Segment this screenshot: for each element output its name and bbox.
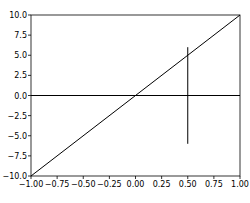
y-tick-label: 2.5 [14,71,27,80]
y-tick-label: −2.5 [8,112,27,121]
y-tick-label: −10.0 [2,172,27,181]
x-tick-label: 0.50 [179,180,197,189]
y-tick-label: 5.0 [14,51,27,60]
y-tick-label: −7.5 [8,152,27,161]
x-axis-ticks: −1.00−0.75−0.50−0.250.000.250.500.751.00 [19,176,249,189]
x-tick-label: −0.50 [71,180,96,189]
y-axis-ticks: 10.07.55.02.50.0−2.5−5.0−7.5−10.0 [2,11,31,181]
y-tick-label: 0.0 [14,92,27,101]
x-tick-label: 0.25 [153,180,171,189]
x-tick-label: −0.25 [97,180,122,189]
plot-lines [31,15,240,176]
x-tick-label: 1.00 [231,180,249,189]
x-tick-label: −0.75 [45,180,70,189]
y-tick-label: 7.5 [14,31,27,40]
y-tick-label: 10.0 [9,11,27,20]
y-tick-label: −5.0 [8,132,27,141]
x-tick-label: −1.00 [19,180,44,189]
x-tick-label: 0.75 [205,180,223,189]
line-chart: −1.00−0.75−0.50−0.250.000.250.500.751.00… [0,0,250,203]
x-tick-label: 0.00 [127,180,145,189]
